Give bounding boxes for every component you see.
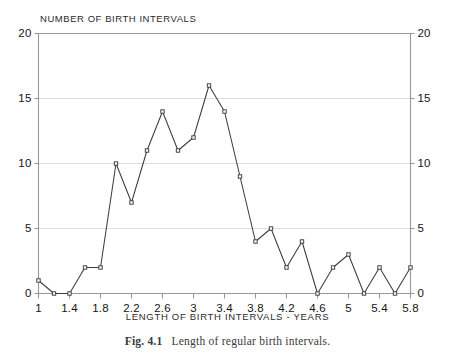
data-point-marker xyxy=(316,292,319,295)
figure-caption: Fig. 4.1Length of regular birth interval… xyxy=(0,335,455,347)
y-axis-tick-label-right: 15 xyxy=(418,92,451,104)
y-axis-tick-label-left: 5 xyxy=(0,222,32,234)
data-point-marker xyxy=(68,292,71,295)
y-axis-tick-label-right: 20 xyxy=(418,27,451,39)
data-point-marker xyxy=(269,227,272,230)
data-point-marker xyxy=(393,292,396,295)
data-point-marker xyxy=(52,292,55,295)
y-axis-tick-label-right: 5 xyxy=(418,222,451,234)
data-point-marker xyxy=(223,110,226,113)
data-point-marker xyxy=(238,175,241,178)
y-axis-tick-label-left: 20 xyxy=(0,27,32,39)
figure-number: Fig. 4.1 xyxy=(125,335,163,347)
data-point-marker xyxy=(99,266,102,269)
data-point-marker xyxy=(378,266,381,269)
data-point-marker xyxy=(347,253,350,256)
data-point-marker xyxy=(362,292,365,295)
y-axis-tick-label-left: 10 xyxy=(0,157,32,169)
data-point-marker xyxy=(192,136,195,139)
y-axis-tick-label-right: 0 xyxy=(418,287,451,299)
data-point-marker xyxy=(300,240,303,243)
data-point-marker xyxy=(207,84,210,87)
data-point-marker xyxy=(83,266,86,269)
y-axis-tick-label-right: 10 xyxy=(418,157,451,169)
y-axis-tick-label-left: 0 xyxy=(0,287,32,299)
figure-container: NUMBER OF BIRTH INTERVALS 00551010151520… xyxy=(0,0,455,357)
data-line xyxy=(39,86,411,294)
data-point-marker xyxy=(254,240,257,243)
y-axis-tick-label-left: 15 xyxy=(0,92,32,104)
data-point-marker xyxy=(285,266,288,269)
data-point-marker xyxy=(161,110,164,113)
data-point-marker xyxy=(331,266,334,269)
data-point-marker xyxy=(409,266,412,269)
data-point-marker xyxy=(37,279,40,282)
data-point-marker xyxy=(114,162,117,165)
figure-caption-text: Length of regular birth intervals. xyxy=(171,335,330,347)
data-point-marker xyxy=(176,149,179,152)
data-point-marker xyxy=(130,201,133,204)
data-point-marker xyxy=(145,149,148,152)
x-axis-label: LENGTH OF BIRTH INTERVALS - YEARS xyxy=(0,311,455,322)
